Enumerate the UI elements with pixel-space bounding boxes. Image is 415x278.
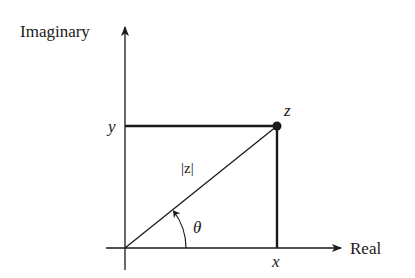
complex-plane-diagram: Imaginary Real y x z |z| θ <box>0 0 415 278</box>
real-axis-label: Real <box>350 239 381 258</box>
x-label: x <box>271 252 280 271</box>
z-label: z <box>283 101 291 120</box>
y-label: y <box>106 117 116 136</box>
magnitude-label: |z| <box>181 160 194 176</box>
point-z <box>273 122 282 131</box>
theta-label: θ <box>193 218 201 237</box>
angle-arc <box>174 211 187 248</box>
imaginary-axis-label: Imaginary <box>20 22 90 41</box>
